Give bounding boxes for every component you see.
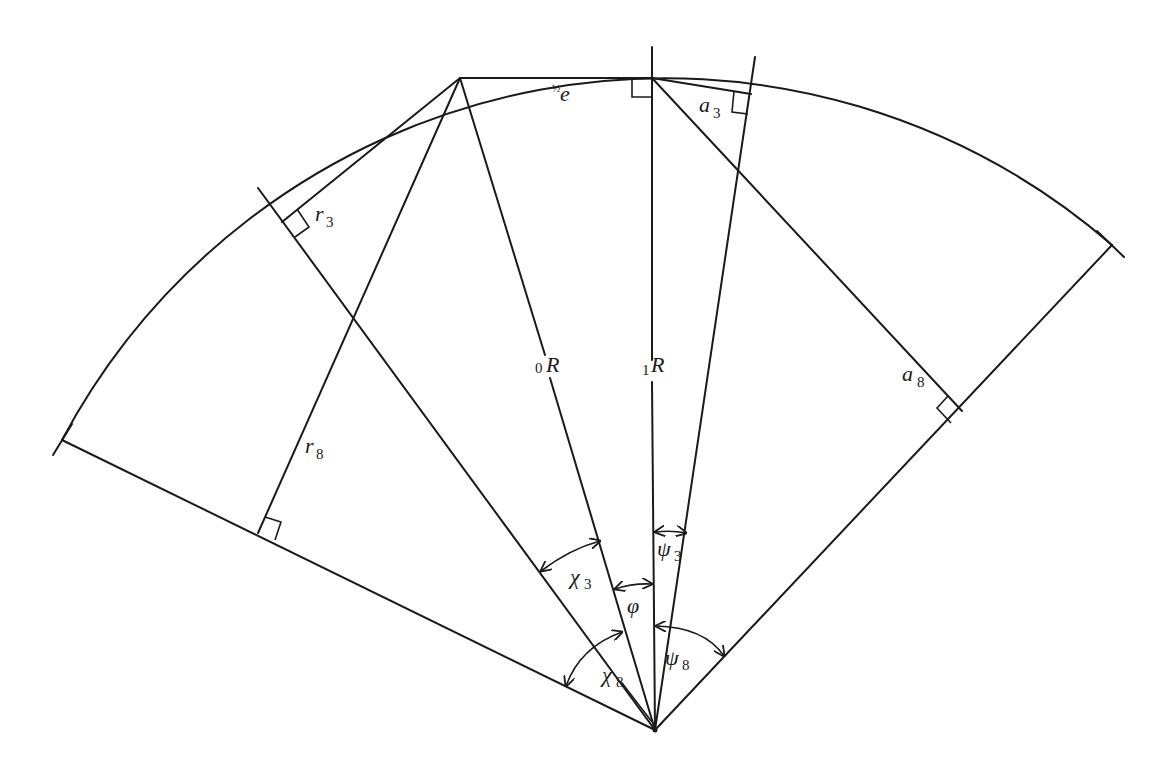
svg-text:R: R xyxy=(545,352,560,377)
chi8-angle-arc xyxy=(566,632,622,686)
svg-text:r: r xyxy=(315,201,324,226)
apex-point xyxy=(653,728,658,733)
svg-text:8: 8 xyxy=(917,374,925,390)
right-angle-marker-q xyxy=(632,78,652,97)
phi-angle-arc xyxy=(615,584,652,589)
svg-text:3: 3 xyxy=(584,576,592,592)
right-radius xyxy=(655,245,1112,730)
right-end-tick xyxy=(1097,231,1124,257)
label-phi: φ xyxy=(627,593,639,618)
svg-text:χ: χ xyxy=(568,564,581,589)
svg-text:r: r xyxy=(305,433,314,458)
svg-text:8: 8 xyxy=(316,446,324,462)
psi3-ray xyxy=(655,57,755,730)
right-angle-marker-a3 xyxy=(732,91,748,114)
label-chi3: χ 3 xyxy=(568,564,592,592)
svg-text:a: a xyxy=(902,361,913,386)
svg-text:ψ: ψ xyxy=(665,645,679,670)
left-end-tick xyxy=(53,424,72,455)
svg-text:e: e xyxy=(560,81,570,106)
label-r3: r 3 xyxy=(315,201,334,230)
svg-text:3: 3 xyxy=(674,548,682,564)
radius-1R-lower xyxy=(652,382,655,730)
label-1R: 1 R xyxy=(642,352,665,378)
label-half-e: ½ e xyxy=(552,81,570,106)
label-chi8: χ 8 xyxy=(600,662,624,690)
sector-diagram: ½ e a 3 r 3 0 R 1 R a 8 r 8 ψ 3 χ 3 φ χ … xyxy=(0,0,1173,776)
label-0R: 0 R xyxy=(535,352,560,377)
label-r8: r 8 xyxy=(305,433,324,462)
label-a3: a 3 xyxy=(699,92,721,121)
svg-text:8: 8 xyxy=(616,674,624,690)
svg-text:3: 3 xyxy=(713,105,721,121)
svg-text:½: ½ xyxy=(552,82,560,94)
right-angle-marker-r3 xyxy=(295,209,309,237)
svg-text:R: R xyxy=(650,352,665,377)
outer-arc xyxy=(62,78,1112,440)
svg-text:8: 8 xyxy=(682,657,690,673)
right-angle-marker-r8 xyxy=(265,517,281,540)
svg-text:1: 1 xyxy=(642,362,650,378)
svg-text:a: a xyxy=(699,92,710,117)
radius-0R xyxy=(460,78,545,355)
label-psi3: ψ 3 xyxy=(657,536,682,564)
label-a8: a 8 xyxy=(902,361,925,390)
svg-text:φ: φ xyxy=(627,593,639,618)
svg-text:3: 3 xyxy=(326,214,334,230)
psi3-angle-arc xyxy=(655,531,686,533)
svg-text:χ: χ xyxy=(600,662,613,687)
r3-segment xyxy=(282,78,460,222)
a8-segment xyxy=(652,78,962,411)
left-radius xyxy=(62,440,655,730)
label-psi8: ψ 8 xyxy=(665,645,690,673)
r8-segment xyxy=(258,78,460,533)
svg-text:ψ: ψ xyxy=(657,536,671,561)
svg-text:0: 0 xyxy=(535,360,543,376)
